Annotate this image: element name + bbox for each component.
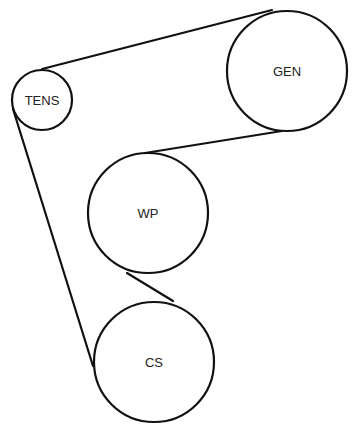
pulley-gen: GEN bbox=[227, 11, 347, 131]
belt-segment-cs-tens bbox=[13, 109, 93, 366]
pulley-gen-label: GEN bbox=[273, 64, 301, 79]
pulley-wp: WP bbox=[88, 153, 208, 273]
pulley-cs: CS bbox=[94, 302, 214, 422]
belt-routing-diagram: TENS GEN WP CS bbox=[0, 0, 353, 427]
pulley-cs-label: CS bbox=[145, 355, 163, 370]
diagram-canvas: TENS GEN WP CS bbox=[0, 0, 353, 427]
pulley-wp-label: WP bbox=[138, 206, 159, 221]
belt-segment-gen-wp bbox=[145, 131, 282, 153]
pulley-tens: TENS bbox=[12, 70, 72, 130]
belt-segment-wp-cs bbox=[127, 273, 173, 301]
pulley-tens-label: TENS bbox=[25, 93, 60, 108]
